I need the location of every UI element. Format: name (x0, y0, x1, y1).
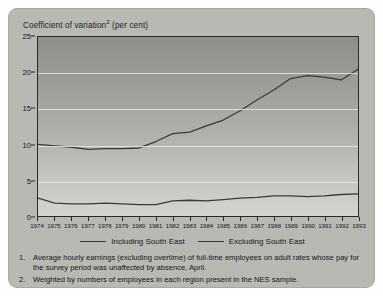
y-axis-tick-mark (31, 217, 35, 218)
x-axis-tick-label: 1984 (200, 222, 214, 229)
x-axis-tick-mark (325, 217, 326, 221)
x-axis-tick-label: 1975 (47, 222, 61, 229)
legend-item[interactable]: Excluding South East (198, 237, 305, 246)
x-axis-tick-label: 1986 (234, 222, 248, 229)
gridline (38, 73, 358, 74)
footnote: 2.Weighted by numbers of employees in ea… (19, 275, 369, 285)
x-axis: 1974197519761977197819791980198119821983… (37, 217, 359, 239)
y-axis: 0510152025 (9, 36, 35, 217)
x-axis-tick-label: 1978 (98, 222, 112, 229)
x-axis-tick-mark (71, 217, 72, 221)
x-axis-tick-mark (257, 217, 258, 221)
legend-label: Excluding South East (229, 237, 305, 246)
x-axis-tick-label: 1981 (149, 222, 163, 229)
plot-area (37, 36, 359, 217)
x-axis-tick-label: 1987 (251, 222, 265, 229)
chart-panel: Coefficient of variation2 (per cent) 051… (8, 8, 375, 288)
x-axis-tick-mark (274, 217, 275, 221)
y-axis-tick-mark (31, 144, 35, 145)
x-axis-tick-label: 1976 (64, 222, 78, 229)
x-axis-tick-label: 1982 (166, 222, 180, 229)
y-axis-tick-mark (31, 36, 35, 37)
x-axis-tick-label: 1993 (352, 222, 366, 229)
x-axis-tick-mark (37, 217, 38, 221)
x-axis-tick-mark (206, 217, 207, 221)
x-axis-tick-mark (240, 217, 241, 221)
y-axis-tick-label: 15 (23, 104, 31, 113)
footnotes: 1.Average hourly earnings (excluding ove… (19, 253, 369, 286)
chart-legend: Including South EastExcluding South East (9, 237, 375, 246)
y-axis-tick-mark (31, 108, 35, 109)
screenshot-root: Coefficient of variation2 (per cent) 051… (0, 0, 383, 296)
legend-line-swatch (80, 241, 106, 243)
x-axis-tick-mark (173, 217, 174, 221)
x-axis-tick-label: 1979 (115, 222, 129, 229)
plot-svg (38, 37, 358, 216)
footnote-number: 2. (19, 275, 28, 285)
x-axis-tick-mark (190, 217, 191, 221)
x-axis-tick-label: 1985 (217, 222, 231, 229)
y-axis-tick-mark (31, 180, 35, 181)
y-axis-tick-label: 20 (23, 68, 31, 77)
gridline (38, 182, 358, 183)
x-axis-tick-mark (223, 217, 224, 221)
x-axis-tick-label: 1983 (183, 222, 197, 229)
x-axis-tick-mark (105, 217, 106, 221)
x-axis-tick-mark (122, 217, 123, 221)
chart-title-text: Coefficient of variation (23, 21, 106, 30)
legend-line-swatch (198, 241, 224, 243)
x-axis-tick-mark (291, 217, 292, 221)
x-axis-tick-mark (54, 217, 55, 221)
x-axis-tick-mark (88, 217, 89, 221)
x-axis-tick-mark (359, 217, 360, 221)
legend-item[interactable]: Including South East (80, 237, 184, 246)
x-axis-tick-label: 1980 (132, 222, 146, 229)
footnote-text: Average hourly earnings (excluding overt… (33, 253, 369, 273)
legend-label: Including South East (111, 237, 184, 246)
x-axis-tick-label: 1989 (284, 222, 298, 229)
chart-title: Coefficient of variation2 (per cent) (23, 19, 148, 30)
x-axis-tick-label: 1992 (335, 222, 349, 229)
gridline (38, 146, 358, 147)
footnote-number: 1. (19, 253, 28, 273)
chart-title-footnote-ref: 2 (106, 19, 109, 25)
data-series-line (38, 194, 358, 205)
x-axis-tick-mark (156, 217, 157, 221)
y-axis-tick-label: 25 (23, 32, 31, 41)
x-axis-tick-label: 1974 (30, 222, 44, 229)
chart-title-unit: (per cent) (112, 21, 148, 30)
footnote: 1.Average hourly earnings (excluding ove… (19, 253, 369, 273)
y-axis-tick-mark (31, 72, 35, 73)
footnote-text: Weighted by numbers of employees in each… (33, 275, 369, 285)
x-axis-tick-label: 1977 (81, 222, 95, 229)
x-axis-tick-label: 1991 (318, 222, 332, 229)
gridline (38, 109, 358, 110)
x-axis-tick-label: 1990 (301, 222, 315, 229)
x-axis-tick-mark (139, 217, 140, 221)
x-axis-tick-mark (308, 217, 309, 221)
y-axis-tick-label: 10 (23, 140, 31, 149)
x-axis-tick-label: 1988 (267, 222, 281, 229)
x-axis-tick-mark (342, 217, 343, 221)
